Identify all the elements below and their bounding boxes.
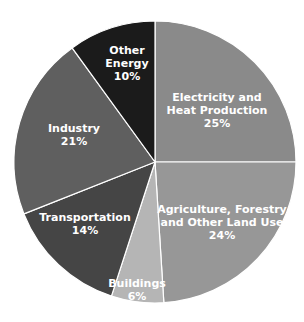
slice-label-name: Agriculture, Forestry [157, 203, 287, 216]
slice-label-name: Energy [105, 57, 148, 70]
slice-label-name: Electricity and [167, 91, 268, 104]
slice-label: Agriculture, Forestryand Other Land Use2… [157, 203, 287, 242]
slice-label-percent: 21% [48, 135, 100, 148]
slice-label-percent: 24% [157, 229, 287, 242]
pie-chart [0, 0, 304, 322]
slice-label-percent: 10% [105, 70, 148, 83]
slice-label-name: Transportation [39, 211, 130, 224]
slice-label-name: Other [105, 44, 148, 57]
slice-label: Electricity andHeat Production25% [167, 91, 268, 130]
slice-label-name: Heat Production [167, 104, 268, 117]
slice-label-name: Buildings [108, 277, 166, 290]
slice-label-percent: 14% [39, 224, 130, 237]
slice-label-name: Industry [48, 122, 100, 135]
slice-label: Buildings6% [108, 277, 166, 303]
slice-label: OtherEnergy10% [105, 44, 148, 83]
slice-label-name: and Other Land Use [157, 216, 287, 229]
slice-label-percent: 25% [167, 117, 268, 130]
slice-label-percent: 6% [108, 290, 166, 303]
slice-label: Transportation14% [39, 211, 130, 237]
slice-label: Industry21% [48, 122, 100, 148]
